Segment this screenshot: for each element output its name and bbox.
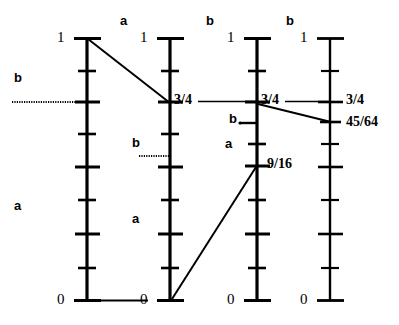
axis-2-top-value: 1 <box>140 30 148 45</box>
axis-1-top-value: 1 <box>57 30 65 45</box>
top-interval-label-a1: a <box>120 14 127 27</box>
axis-4-top-value: 1 <box>300 30 308 45</box>
top-interval-label-b1: b <box>206 14 214 27</box>
axis-4-bottom-value: 0 <box>300 292 308 307</box>
top-interval-label-b2: b <box>286 14 294 27</box>
axis-2-value-three-quarters: 3/4 <box>174 93 192 107</box>
connector-axis1-top-to-axis2-34 <box>88 39 170 103</box>
region-label-mid-a: a <box>132 212 139 225</box>
region-label-left-b: b <box>14 71 22 84</box>
axis-2-group <box>157 38 184 301</box>
region-label-mid-b: b <box>132 136 140 149</box>
diagram-vector-layer <box>0 0 399 325</box>
axis-4-value-three-quarters: 3/4 <box>346 93 364 107</box>
region-label-right-a: a <box>225 137 232 150</box>
axis-3-value-three-quarters: 3/4 <box>261 93 279 107</box>
axis-4-value-fortyfive-sixtyfourths: 45/64 <box>346 115 378 129</box>
axis-3-value-nine-sixteenths: 9/16 <box>267 157 292 171</box>
region-label-left-a: a <box>14 199 21 212</box>
axis-1-group <box>74 38 101 301</box>
axis-3-bottom-value: 0 <box>227 292 235 307</box>
region-label-right-b: b <box>229 112 237 125</box>
axis-4-group <box>317 38 344 301</box>
diagram-canvas: a b b 1 0 1 0 3/4 1 0 3/4 9/16 1 0 3/4 4… <box>0 0 399 325</box>
rule-right-b-endpoint <box>238 121 241 124</box>
axis-3-top-value: 1 <box>227 30 235 45</box>
connector-axis2-zero-to-axis3-916 <box>172 167 256 299</box>
axis-1-bottom-value: 0 <box>57 292 65 307</box>
axis-2-bottom-value: 0 <box>140 292 148 307</box>
